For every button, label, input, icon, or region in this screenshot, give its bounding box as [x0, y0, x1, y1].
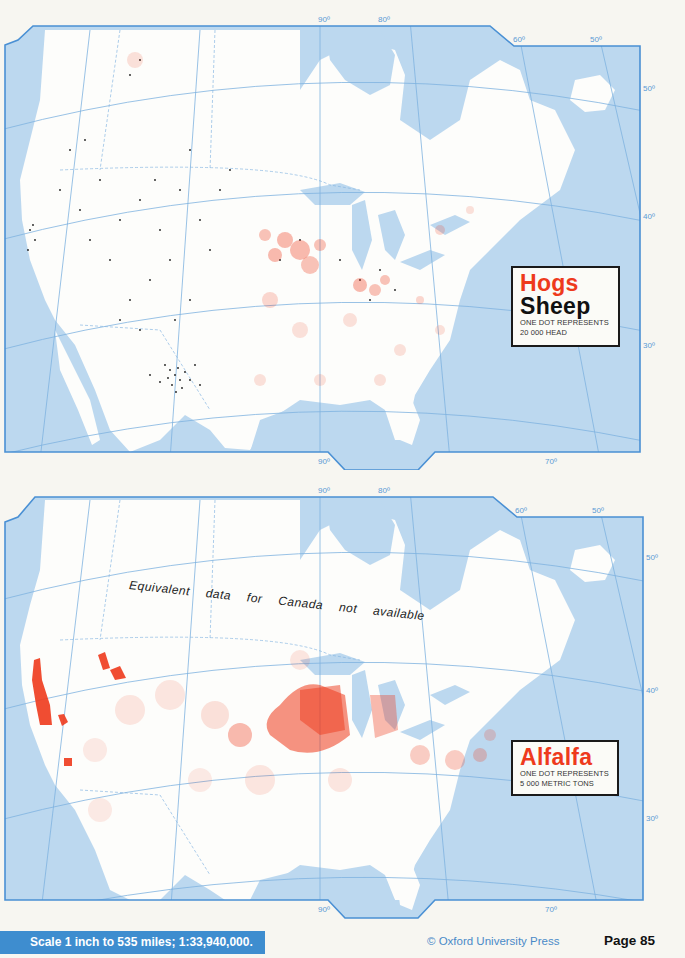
note-word: for — [246, 590, 263, 606]
lon-label-90: 90º — [318, 486, 330, 495]
legend-title-sheep: Sheep — [520, 295, 610, 318]
lat-label-40: 40º — [643, 212, 655, 221]
lat-label-30: 30º — [643, 341, 655, 350]
copyright: © Oxford University Press — [427, 935, 559, 947]
lon-label-50: 50º — [592, 506, 604, 515]
lat-label-50: 50º — [646, 553, 658, 562]
legend-dot-value-line2: 5 000 METRIC TONS — [520, 779, 609, 789]
legend-dot-value-line2: 20 000 HEAD — [520, 328, 610, 338]
lon-label-80: 80º — [378, 486, 390, 495]
lat-label-50: 50º — [643, 84, 655, 93]
scale-bar: Scale 1 inch to 535 miles; 1:33,940,000. — [0, 931, 265, 954]
legend-dot-value-line1: ONE DOT REPRESENTS — [520, 318, 610, 328]
lon-label-bottom-70: 70º — [545, 457, 557, 466]
lon-label-bottom-90: 90º — [318, 457, 330, 466]
note-word: not — [338, 600, 358, 616]
lon-label-bottom-70: 70º — [545, 905, 557, 914]
page-number: Page 85 — [604, 933, 655, 948]
lon-label-60: 60º — [513, 35, 525, 44]
lon-label-50: 50º — [590, 35, 602, 44]
map-hogs-sheep: 90º 80º 60º 50º 50º 40º 30º 90º 70º Hogs… — [0, 0, 685, 470]
legend-dot-value-line1: ONE DOT REPRESENTS — [520, 769, 609, 779]
lon-label-bottom-90: 90º — [318, 905, 330, 914]
map-canvas: 90º 80º 60º 50º 50º 40º 30º 90º 70º — [0, 0, 685, 470]
legend-title-hogs: Hogs — [520, 272, 610, 295]
legend-hogs-sheep: Hogs Sheep ONE DOT REPRESENTS 20 000 HEA… — [511, 266, 620, 347]
lat-label-30: 30º — [646, 814, 658, 823]
legend-alfalfa: Alfalfa ONE DOT REPRESENTS 5 000 METRIC … — [511, 740, 619, 796]
map-alfalfa: 90º 80º 60º 50º 50º 40º 30º 90º 70º Alfa… — [0, 480, 685, 920]
lon-label-90: 90º — [318, 15, 330, 24]
lon-label-60: 60º — [515, 506, 527, 515]
note-word: data — [205, 586, 232, 603]
map-canvas: 90º 80º 60º 50º 50º 40º 30º 90º 70º — [0, 480, 685, 920]
legend-title-alfalfa: Alfalfa — [520, 746, 609, 769]
lon-label-80: 80º — [378, 15, 390, 24]
lat-label-40: 40º — [646, 686, 658, 695]
